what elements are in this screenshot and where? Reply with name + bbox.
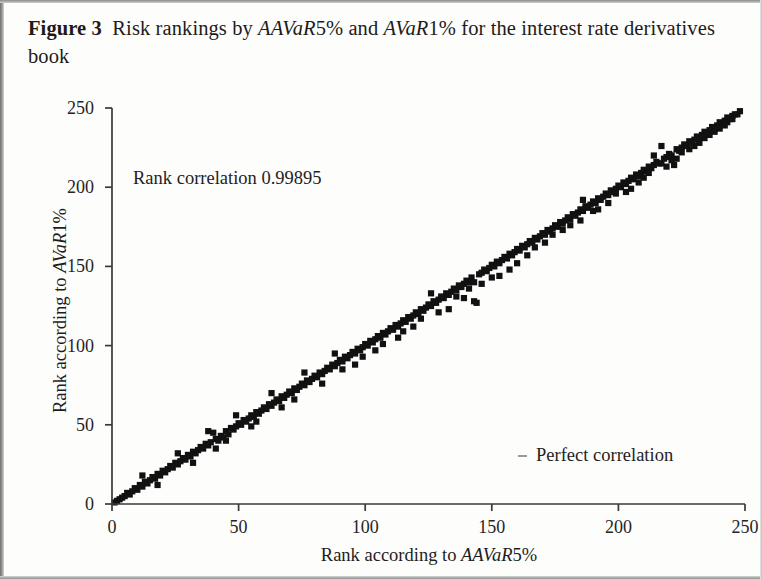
- scatter-point: [291, 396, 297, 402]
- rank-correlation-annotation: Rank correlation 0.99895: [133, 168, 322, 189]
- scatter-point: [712, 129, 718, 135]
- x-tick-label: 150: [478, 517, 505, 538]
- scatter-point: [542, 240, 548, 246]
- scatter-point: [737, 108, 743, 114]
- legend-label-perfect-correlation: Perfect correlation: [536, 445, 673, 466]
- scatter-point: [679, 149, 685, 155]
- scatter-point: [471, 279, 477, 285]
- scatter-point: [623, 189, 629, 195]
- x-tick-label: 50: [230, 517, 248, 538]
- scatter-point: [613, 190, 619, 196]
- scatter-point: [658, 143, 664, 149]
- scatter-point: [205, 428, 211, 434]
- scatter-point: [567, 222, 573, 228]
- scatter-point: [506, 266, 512, 272]
- scatter-point: [301, 369, 307, 375]
- scatter-point: [489, 274, 495, 280]
- scatter-point: [532, 244, 538, 250]
- perfect-correlation-swatch-icon: [518, 455, 527, 457]
- scatter-point: [418, 316, 424, 322]
- scatter-point: [190, 460, 196, 466]
- scatter-point: [268, 390, 274, 396]
- scatter-point: [223, 438, 229, 444]
- y-axis-title-prefix: Rank according to: [50, 273, 70, 413]
- x-tick-label: 250: [732, 517, 759, 538]
- scatter-point: [339, 366, 345, 372]
- y-axis-title-em: AVaR: [50, 233, 70, 273]
- scatter-point: [395, 335, 401, 341]
- scatter-point: [549, 232, 555, 238]
- scatter-point: [474, 300, 480, 306]
- scatter-point: [729, 116, 735, 122]
- figure-panel: Figure 3 Risk rankings by AAVaR5% and AV…: [0, 0, 762, 579]
- scatter-point: [701, 135, 707, 141]
- scatter-point: [319, 381, 325, 387]
- scatter-point: [410, 323, 416, 329]
- scatter-plot-canvas: [0, 0, 762, 579]
- scatter-point: [400, 328, 406, 334]
- y-axis-title: Rank according to AVaR1%: [50, 111, 71, 511]
- x-axis-title: Rank according to AAVaR5%: [112, 545, 746, 566]
- x-tick-label: 200: [605, 517, 632, 538]
- scatter-point: [668, 157, 674, 163]
- scatter-point: [436, 309, 442, 315]
- scatter-point: [605, 200, 611, 206]
- scatter-point: [580, 197, 586, 203]
- scatter-point: [722, 122, 728, 128]
- scatter-point: [560, 227, 566, 233]
- scatter-point: [651, 152, 657, 158]
- scatter-point: [479, 281, 485, 287]
- scatter-point: [590, 208, 596, 214]
- scatter-point: [496, 273, 502, 279]
- scatter-point: [658, 160, 664, 166]
- y-axis-title-suffix: 1%: [50, 208, 70, 233]
- scatter-point: [213, 445, 219, 451]
- x-tick-label: 100: [352, 517, 379, 538]
- scatter-point: [380, 341, 386, 347]
- scatter-point: [360, 354, 366, 360]
- scatter-point: [248, 423, 254, 429]
- x-tick-label: 0: [108, 517, 117, 538]
- x-axis-title-prefix: Rank according to: [321, 545, 461, 565]
- scatter-point: [428, 290, 434, 296]
- x-axis-title-em: AAVaR: [461, 545, 512, 565]
- scatter-point: [175, 450, 181, 456]
- scatter-point: [691, 143, 697, 149]
- scatter-point: [461, 295, 467, 301]
- scatter-point: [646, 170, 652, 176]
- legend: Perfect correlation: [518, 445, 673, 466]
- scatter-point: [636, 179, 642, 185]
- scatter-point: [577, 217, 583, 223]
- scatter-point: [352, 362, 358, 368]
- scatter-point: [372, 347, 378, 353]
- scatter-point: [139, 472, 145, 478]
- scatter-point: [524, 252, 530, 258]
- scatter-point: [332, 350, 338, 356]
- scatter-point: [453, 293, 459, 299]
- x-axis-title-suffix: 5%: [513, 545, 538, 565]
- scatter-point: [466, 285, 472, 291]
- scatter-point: [514, 260, 520, 266]
- scatter-point: [154, 482, 160, 488]
- scatter-point: [279, 404, 285, 410]
- scatter-point: [233, 412, 239, 418]
- scatter-point: [446, 306, 452, 312]
